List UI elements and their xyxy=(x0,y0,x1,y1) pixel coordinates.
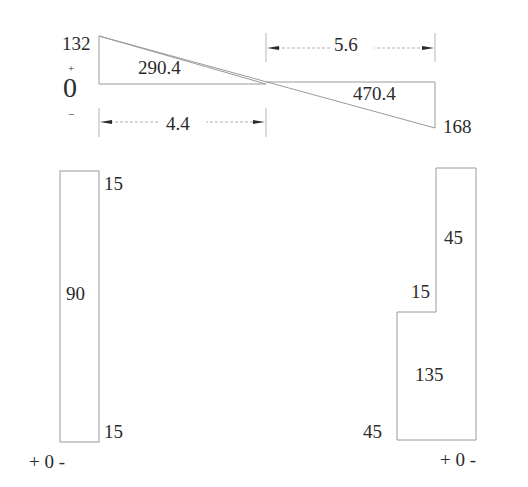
left-value: 132 xyxy=(62,33,91,54)
left-mid-value: 90 xyxy=(66,283,85,304)
right-bottom-value: 45 xyxy=(363,421,382,442)
dimension-right: 5.6 xyxy=(266,33,435,62)
moment-diagram: 132 + 0 − 290.4 470.4 168 4.4 5.6 xyxy=(62,33,472,137)
minus-sign: − xyxy=(68,108,74,120)
dim-right-label: 5.6 xyxy=(334,34,358,55)
dim-left-label: 4.4 xyxy=(166,113,190,134)
dimension-left: 4.4 xyxy=(99,108,266,137)
right-lower-value: 135 xyxy=(415,364,444,385)
left-axis-label: + 0 - xyxy=(29,451,65,472)
right-area-label: 470.4 xyxy=(353,83,396,104)
right-axis-label: + 0 - xyxy=(440,449,476,470)
left-rectangle xyxy=(60,171,99,442)
left-top-value: 15 xyxy=(104,173,123,194)
zero-axis-label: 0 xyxy=(63,72,77,103)
right-column-diagram: 45 15 135 45 + 0 - xyxy=(363,168,476,470)
right-upper-value: 45 xyxy=(444,227,463,248)
left-area-label: 290.4 xyxy=(138,57,181,78)
structural-diagram: 132 + 0 − 290.4 470.4 168 4.4 5.6 xyxy=(0,0,528,487)
right-stepped-shape xyxy=(397,168,476,440)
right-value: 168 xyxy=(443,116,472,137)
left-bottom-value: 15 xyxy=(104,421,123,442)
left-column-diagram: 15 90 15 + 0 - xyxy=(29,171,123,472)
right-step-value: 15 xyxy=(411,281,430,302)
